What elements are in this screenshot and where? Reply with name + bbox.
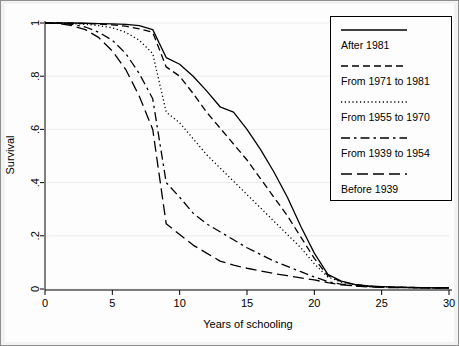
x-axis-ticks: 051015202530 bbox=[42, 290, 455, 309]
x-tick-label: 15 bbox=[241, 297, 253, 309]
legend: After 1981From 1971 to 1981From 1955 to … bbox=[331, 17, 452, 201]
legend-label-after-1981: After 1981 bbox=[341, 39, 390, 51]
legend-label-from-1939-to-1954: From 1939 to 1954 bbox=[341, 147, 430, 159]
legend-label-from-1955-to-1970: From 1955 to 1970 bbox=[341, 111, 430, 123]
y-axis-title: Survival bbox=[4, 135, 16, 174]
y-tick-label: 1 bbox=[29, 20, 41, 26]
y-tick-label: .2 bbox=[29, 231, 41, 240]
x-tick-label: 10 bbox=[174, 297, 186, 309]
y-tick-label: .6 bbox=[29, 125, 41, 134]
x-tick-label: 0 bbox=[42, 297, 48, 309]
y-axis-ticks: 0.2.4.6.81 bbox=[29, 20, 44, 292]
y-tick-label: .8 bbox=[29, 72, 41, 81]
figure-screenshot: 051015202530 0.2.4.6.81 Years of schooli… bbox=[0, 0, 459, 346]
legend-label-before-1939: Before 1939 bbox=[341, 183, 398, 195]
x-tick-label: 30 bbox=[443, 297, 455, 309]
x-tick-label: 25 bbox=[376, 297, 388, 309]
y-tick-label: .4 bbox=[29, 178, 41, 187]
x-tick-label: 20 bbox=[308, 297, 320, 309]
x-tick-label: 5 bbox=[109, 297, 115, 309]
y-tick-label: 0 bbox=[29, 286, 41, 292]
survival-curve-chart: 051015202530 0.2.4.6.81 Years of schooli… bbox=[0, 0, 459, 346]
legend-label-from-1971-to-1981: From 1971 to 1981 bbox=[341, 75, 430, 87]
x-axis-title: Years of schooling bbox=[203, 318, 293, 330]
